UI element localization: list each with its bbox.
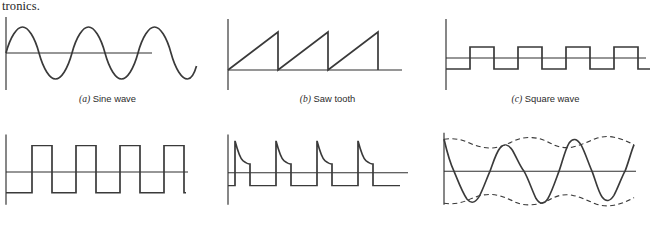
panel-caption-square-wave: (c) Square wave: [438, 93, 653, 104]
running-body-text: tronics.: [2, 0, 40, 14]
waveform-panel-square-wave: (c) Square wave: [438, 13, 653, 113]
square-wave-plot: [438, 13, 653, 93]
decaying-pulse-train-trace: [228, 141, 400, 186]
saw-tooth-plot: [220, 13, 435, 93]
panel-caption-sine-wave: (a) Sine wave: [0, 93, 215, 104]
caption-title: Sine wave: [93, 93, 136, 104]
panel-caption-saw-tooth: (b) Saw tooth: [220, 93, 435, 104]
caption-label: (c): [512, 93, 523, 104]
decaying-pulse-train-plot: [220, 128, 435, 208]
saw-tooth-trace: [228, 32, 378, 70]
caption-title: Saw tooth: [314, 93, 356, 104]
upper-envelope: [444, 137, 634, 148]
pulse-train-plot: [0, 128, 215, 208]
waveform-panel-sine-wave: (a) Sine wave: [0, 13, 215, 113]
waveform-panel-modulated-wave: [438, 128, 653, 228]
caption-title: Square wave: [525, 93, 580, 104]
caption-label: (a): [79, 93, 90, 104]
waveform-panel-saw-tooth: (b) Saw tooth: [220, 13, 435, 113]
sine-wave-plot: [0, 13, 215, 93]
waveform-panel-pulse-train: [0, 128, 215, 228]
pulse-train-trace: [6, 146, 186, 193]
modulated-wave-plot: [438, 128, 653, 208]
waveform-panel-decaying-pulse-train: [220, 128, 435, 228]
caption-label: (b): [300, 93, 311, 104]
